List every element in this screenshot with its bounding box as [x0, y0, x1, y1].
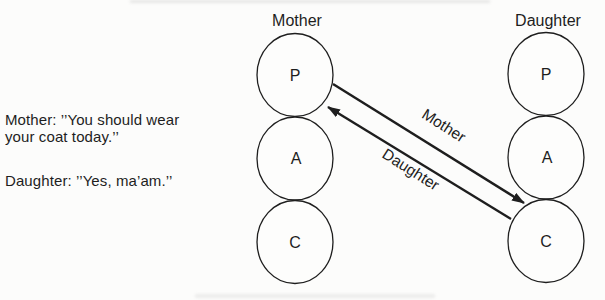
mother-adult-letter: A [291, 150, 302, 167]
mother-arrow-label: Mother [419, 105, 469, 145]
daughter-adult-letter: A [542, 149, 553, 166]
daughter-arrow-label: Daughter [379, 145, 442, 194]
mother-column-label: Mother [272, 12, 322, 29]
mother-column: Mother P A C [257, 12, 333, 284]
transaction-arrows: Mother Daughter [328, 84, 524, 219]
daughter-column-label: Daughter [515, 12, 581, 29]
transaction-diagram: Mother P A C Daughter P A C Mother Daugh… [0, 0, 605, 300]
mother-child-letter: C [289, 234, 301, 251]
daughter-response-arrow [328, 107, 511, 219]
figure-canvas: Mother: ’’You should wear your coat toda… [0, 0, 605, 300]
daughter-column: Daughter P A C [508, 12, 584, 283]
daughter-child-letter: C [540, 233, 552, 250]
mother-parent-letter: P [290, 67, 301, 84]
daughter-parent-letter: P [541, 66, 552, 83]
